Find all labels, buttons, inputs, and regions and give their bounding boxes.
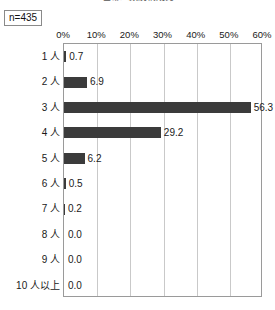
bar [64,77,87,88]
chart-row: 10 人以上0.0 [64,273,261,298]
bar-value-label: 0.0 [65,247,82,272]
category-label: 9 人 [42,247,60,272]
chart-row: 2 人6.9 [64,69,261,94]
category-label: 5 人 [42,146,60,171]
chart-row: 4 人29.2 [64,120,261,145]
x-tick-label: 60% [252,29,271,41]
bar [64,102,251,113]
chart-row: 7 人0.2 [64,196,261,221]
x-tick-label: 30% [153,29,172,41]
category-label: 2 人 [42,69,60,94]
bar-value-label: 0.5 [66,171,83,196]
x-tick-label: 50% [219,29,238,41]
bar-value-label: 0.0 [65,273,82,298]
x-tick-label: 0% [56,29,70,41]
chart-row: 6 人0.5 [64,171,261,196]
x-axis-tick-labels: 0%10%20%30%40%50%60% [0,29,275,41]
chart-row: 8 人0.0 [64,222,261,247]
category-label: 1 人 [42,44,60,69]
category-label: 4 人 [42,120,60,145]
bar [64,127,161,138]
x-tick-label: 40% [186,29,205,41]
chart-row: 9 人0.0 [64,247,261,272]
x-tick-label: 10% [87,29,106,41]
sample-size-badge: n=435 [4,10,42,26]
x-tick-label: 20% [120,29,139,41]
bar-value-label: 0.0 [65,222,82,247]
category-label: 10 人以上 [16,273,60,298]
bar-value-label: 6.9 [87,69,104,94]
bar-value-label: 0.7 [66,44,83,69]
bar-value-label: 56.3 [251,95,273,120]
bar [64,153,85,164]
category-label: 6 人 [42,171,60,196]
chart-row: 5 人6.2 [64,146,261,171]
bar-value-label: 29.2 [161,120,183,145]
category-label: 3 人 [42,95,60,120]
chart-row: 1 人0.7 [64,44,261,69]
bar-value-label: 0.2 [65,196,82,221]
category-label: 7 人 [42,196,60,221]
plot-area: 1 人0.72 人6.93 人56.34 人29.25 人6.26 人0.57 … [63,43,262,297]
bar-value-label: 6.2 [85,146,102,171]
chart-title: 世帯人数別構成比 [0,0,275,1]
chart-row: 3 人56.3 [64,95,261,120]
category-label: 8 人 [42,222,60,247]
